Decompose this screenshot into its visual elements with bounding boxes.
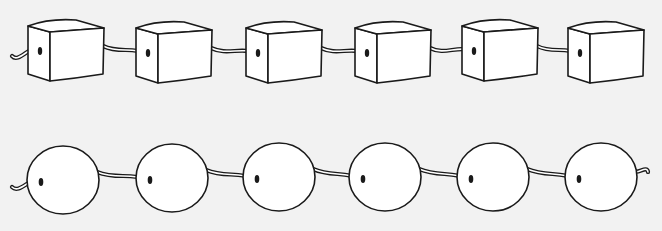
sphere-bead bbox=[565, 143, 637, 211]
cube-bead bbox=[28, 20, 104, 81]
bead-hole bbox=[577, 175, 582, 183]
sphere-bead bbox=[349, 143, 421, 211]
sphere-bead bbox=[27, 146, 99, 214]
bead-strings-illustration bbox=[0, 0, 662, 231]
cube-bead bbox=[568, 22, 644, 83]
bead-hole bbox=[148, 176, 153, 184]
cube-bead bbox=[462, 20, 538, 81]
cube-bead bbox=[355, 22, 431, 83]
bead-hole bbox=[469, 175, 474, 183]
cube-bead bbox=[136, 22, 212, 83]
bead-hole bbox=[472, 47, 476, 55]
sphere-bead bbox=[136, 144, 208, 212]
bead-hole bbox=[255, 175, 260, 183]
bead-hole bbox=[256, 49, 260, 57]
sphere-bead bbox=[457, 143, 529, 211]
bead-hole bbox=[578, 49, 582, 57]
sphere-bead bbox=[243, 143, 315, 211]
bead-hole bbox=[361, 175, 366, 183]
bead-hole bbox=[365, 49, 369, 57]
sphere-bead-string bbox=[12, 143, 648, 214]
cube-bead bbox=[246, 22, 322, 83]
bead-hole bbox=[38, 47, 42, 55]
bead-hole bbox=[39, 178, 44, 186]
cube-bead-string bbox=[12, 20, 644, 83]
bead-hole bbox=[146, 49, 150, 57]
